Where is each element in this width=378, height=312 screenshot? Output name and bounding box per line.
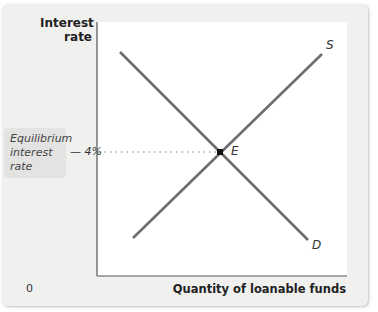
x-axis-label: Quantity of loanable funds — [173, 282, 346, 296]
origin-label: 0 — [26, 282, 33, 295]
equilibrium-label: E — [231, 144, 239, 158]
y-tick-4pct: — 4% — [70, 145, 102, 158]
equilibrium-point — [217, 149, 223, 155]
supply-label: S — [326, 38, 334, 52]
supply-curve — [133, 54, 322, 238]
equilibrium-annotation: Equilibrium interest rate — [4, 128, 66, 178]
demand-label: D — [312, 238, 321, 252]
demand-curve — [120, 52, 308, 240]
y-axis-label: Interest rate — [40, 16, 92, 44]
